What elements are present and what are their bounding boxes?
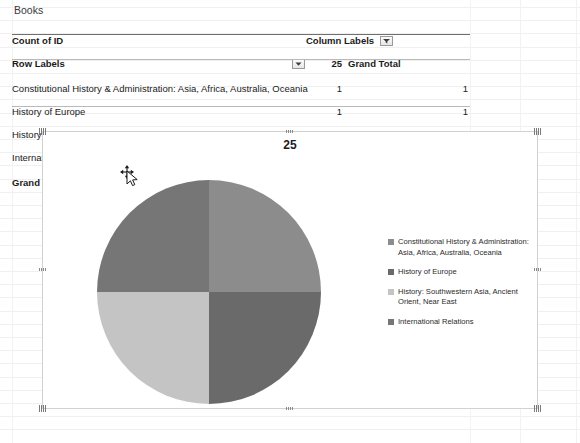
pivot-column-header-1: Grand Total xyxy=(348,58,468,70)
chart-title: 25 xyxy=(43,138,537,152)
legend-label: International Relations xyxy=(398,317,534,328)
chart-resize-handle-middle-right[interactable] xyxy=(534,266,541,273)
legend-swatch-icon xyxy=(388,289,394,295)
legend-item[interactable]: International Relations xyxy=(388,317,534,328)
pie-graphic[interactable] xyxy=(97,180,321,404)
table-row[interactable]: Constitutional History & Administration:… xyxy=(12,83,470,95)
pivot-column-labels-header: Column Labels xyxy=(306,35,374,47)
column-labels-filter-dropdown-icon[interactable] xyxy=(380,36,393,46)
pivot-header-row-2: Row Labels 25 Grand Total xyxy=(12,58,470,70)
chart-resize-handle-bottom-right[interactable] xyxy=(534,405,541,412)
chart-resize-handle-middle-left[interactable] xyxy=(39,266,46,273)
pie-chart-object[interactable]: 25 Constitutional History & Administrati… xyxy=(42,131,538,409)
legend-swatch-icon xyxy=(388,319,394,325)
pivot-value-field-label: Count of ID xyxy=(12,35,63,47)
pivot-table: Count of ID Column Labels Row Labels 25 … xyxy=(12,34,470,115)
legend-item[interactable]: History of Europe xyxy=(388,267,534,278)
chart-resize-handle-top-right[interactable] xyxy=(534,128,541,135)
pie-chart-plot-area[interactable] xyxy=(97,180,321,404)
legend-swatch-icon xyxy=(388,239,394,245)
pivot-row-value-1: 1 xyxy=(348,83,468,95)
pivot-header-row-1: Count of ID Column Labels xyxy=(12,35,470,47)
pivot-column-header-0: 25 xyxy=(12,58,342,70)
chart-resize-handle-bottom-center[interactable] xyxy=(286,405,293,412)
legend-item[interactable]: Constitutional History & Administration:… xyxy=(388,237,534,258)
chart-resize-handle-top-left[interactable] xyxy=(39,128,46,135)
table-row[interactable]: History of Europe 1 1 xyxy=(12,106,470,118)
pivot-total-rule xyxy=(12,106,470,107)
pivot-row-value-1: 1 xyxy=(348,106,468,118)
legend-label: Constitutional History & Administration:… xyxy=(398,237,534,258)
legend-label: History of Europe xyxy=(398,267,534,278)
pivot-row-value-0: 1 xyxy=(12,106,342,118)
chart-resize-handle-bottom-left[interactable] xyxy=(39,405,46,412)
legend-item[interactable]: History: Southwestern Asia, Ancient Orie… xyxy=(388,287,534,308)
pivot-header-rule xyxy=(12,59,470,60)
sheet-cell-books: Books xyxy=(14,4,43,16)
pivot-row-value-0: 1 xyxy=(12,83,342,95)
chart-resize-handle-top-center[interactable] xyxy=(286,128,293,135)
legend-label: History: Southwestern Asia, Ancient Orie… xyxy=(398,287,534,308)
move-cursor-icon xyxy=(119,164,145,190)
chart-legend[interactable]: Constitutional History & Administration:… xyxy=(388,237,534,336)
legend-swatch-icon xyxy=(388,269,394,275)
